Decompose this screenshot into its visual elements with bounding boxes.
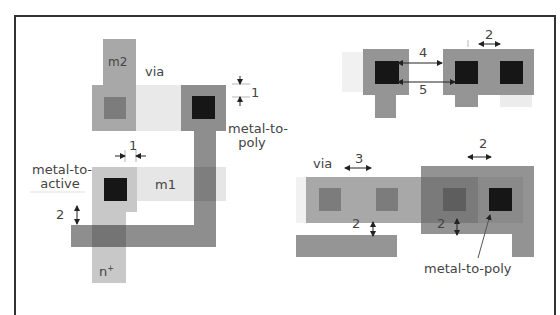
- dimension-arrows: [0, 0, 560, 299]
